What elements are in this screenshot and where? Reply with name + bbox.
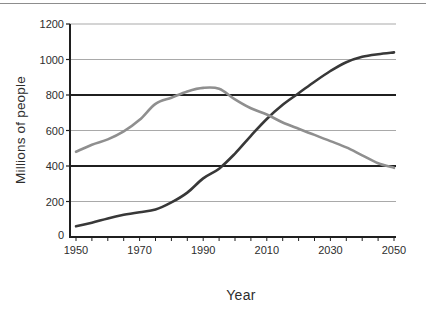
y-tick-label-600: 600 [46, 125, 64, 137]
x-tick-label-1950: 1950 [64, 244, 88, 256]
y-tick-label-1200: 1200 [40, 18, 64, 30]
series-dark-line [76, 52, 394, 226]
x-tick-label-2010: 2010 [255, 244, 279, 256]
x-tick-label-1970: 1970 [127, 244, 151, 256]
y-tick-label-1000: 1000 [40, 54, 64, 66]
line-chart-figure: 0200400600800100012001950197019902010203… [0, 0, 426, 320]
chart-canvas: 0200400600800100012001950197019902010203… [0, 0, 426, 320]
x-tick-label-2030: 2030 [318, 244, 342, 256]
y-tick-label-0: 0 [58, 229, 64, 241]
x-tick-label-1990: 1990 [191, 244, 215, 256]
x-tick-label-2050: 2050 [382, 244, 406, 256]
series-gray-line [76, 87, 394, 167]
y-tick-label-200: 200 [46, 196, 64, 208]
y-tick-label-400: 400 [46, 160, 64, 172]
y-tick-label-800: 800 [46, 89, 64, 101]
x-axis-title: Year [111, 287, 371, 303]
y-axis-title: Millions of people [13, 0, 31, 270]
